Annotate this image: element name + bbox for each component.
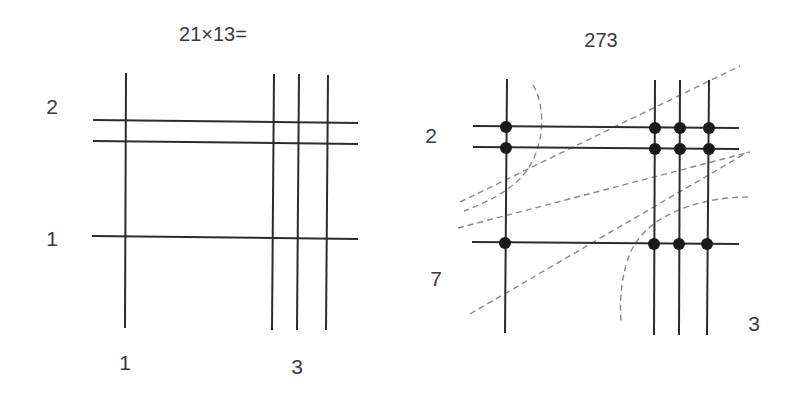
intersection-dot xyxy=(649,143,661,155)
intersection-dot xyxy=(648,238,660,250)
intersection-dot xyxy=(674,143,686,155)
multiplier-line xyxy=(92,236,358,239)
lattice-multiplication-diagram xyxy=(0,0,802,406)
multiplicand-line xyxy=(707,80,709,335)
intersection-dot xyxy=(499,237,511,249)
diagonal-group-line xyxy=(470,152,748,314)
row-digit-label: 2 xyxy=(46,96,58,117)
intersection-dot xyxy=(649,122,661,134)
right-result-value: 273 xyxy=(584,30,617,50)
intersection-dot xyxy=(500,142,512,154)
left-title-equation: 21×13= xyxy=(179,24,247,44)
multiplicand-line xyxy=(505,79,507,333)
multiplier-line xyxy=(93,120,358,123)
result-digit-label: 3 xyxy=(748,313,760,334)
left-lattice-grid xyxy=(92,73,358,330)
multiplicand-line xyxy=(326,75,328,330)
multiplicand-line xyxy=(272,74,274,330)
intersection-dot xyxy=(703,122,715,134)
multiplier-line xyxy=(473,147,739,149)
column-digit-label: 3 xyxy=(291,356,303,377)
intersection-dot xyxy=(673,238,685,250)
multiplicand-line xyxy=(679,80,680,335)
column-digit-label: 1 xyxy=(119,352,131,373)
multiplicand-line xyxy=(297,74,299,330)
result-digit-label: 2 xyxy=(425,125,437,146)
right-lattice-grid xyxy=(458,66,750,335)
multiplier-line xyxy=(472,242,739,244)
multiplier-line xyxy=(93,141,358,144)
result-digit-label: 7 xyxy=(430,268,442,289)
multiplier-line xyxy=(473,126,739,128)
intersection-dot xyxy=(701,238,713,250)
multiplicand-line xyxy=(654,80,655,335)
diagonal-group-line xyxy=(458,152,750,228)
row-digit-label: 1 xyxy=(46,228,58,249)
grouping-arc xyxy=(621,197,748,321)
multiplicand-line xyxy=(125,73,126,328)
intersection-dot xyxy=(674,122,686,134)
intersection-dot xyxy=(703,143,715,155)
intersection-dot xyxy=(500,121,512,133)
